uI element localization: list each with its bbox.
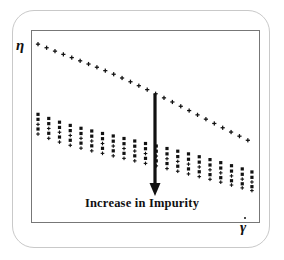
figure-root: η γ Increase in Impurity xyxy=(0,0,284,260)
x-axis-label: γ xyxy=(240,220,246,235)
plot-axes-frame xyxy=(31,30,260,223)
x-axis-label-text: γ xyxy=(240,219,246,235)
y-axis-label: η xyxy=(16,38,24,53)
gamma-dot-accent xyxy=(244,217,246,219)
increase-in-impurity-label: Increase in Impurity xyxy=(0,196,284,211)
